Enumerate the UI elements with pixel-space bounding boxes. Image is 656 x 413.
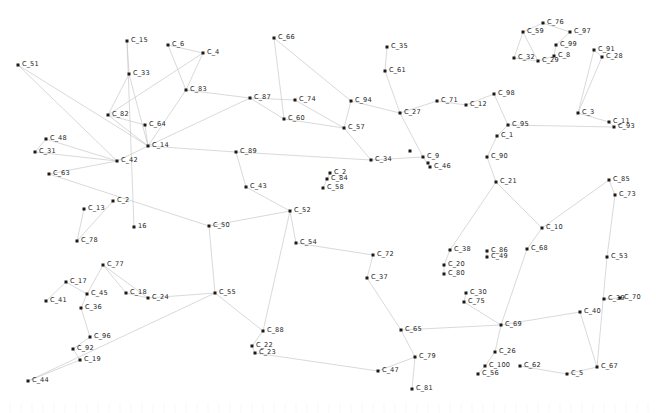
graph-node[interactable] bbox=[262, 330, 265, 333]
graph-node[interactable] bbox=[486, 156, 489, 159]
graph-node[interactable] bbox=[249, 97, 252, 100]
graph-node[interactable] bbox=[465, 104, 468, 107]
graph-node[interactable] bbox=[370, 159, 373, 162]
graph-node[interactable] bbox=[167, 44, 170, 47]
graph-node[interactable] bbox=[422, 156, 425, 159]
graph-node[interactable] bbox=[496, 135, 499, 138]
graph-node[interactable] bbox=[350, 100, 353, 103]
graph-node[interactable] bbox=[443, 273, 446, 276]
graph-node[interactable] bbox=[603, 298, 606, 301]
graph-node[interactable] bbox=[399, 112, 402, 115]
graph-node[interactable] bbox=[619, 297, 622, 300]
graph-node[interactable] bbox=[513, 57, 516, 60]
graph-node[interactable] bbox=[495, 181, 498, 184]
graph-node[interactable] bbox=[500, 324, 503, 327]
graph-node[interactable] bbox=[555, 44, 558, 47]
graph-node[interactable] bbox=[493, 93, 496, 96]
graph-node[interactable] bbox=[86, 293, 89, 296]
graph-node[interactable] bbox=[295, 242, 298, 245]
graph-node[interactable] bbox=[107, 114, 110, 117]
graph-node[interactable] bbox=[65, 281, 68, 284]
graph-node[interactable] bbox=[45, 300, 48, 303]
graph-node[interactable] bbox=[289, 210, 292, 213]
graph-node[interactable] bbox=[89, 336, 92, 339]
graph-node[interactable] bbox=[245, 186, 248, 189]
graph-node[interactable] bbox=[208, 225, 211, 228]
graph-node[interactable] bbox=[579, 311, 582, 314]
graph-node[interactable] bbox=[185, 89, 188, 92]
graph-node[interactable] bbox=[372, 254, 375, 257]
graph-node[interactable] bbox=[377, 370, 380, 373]
graph-node[interactable] bbox=[343, 127, 346, 130]
graph-node[interactable] bbox=[147, 297, 150, 300]
graph-node[interactable] bbox=[606, 256, 609, 259]
graph-node[interactable] bbox=[128, 73, 131, 76]
graph-node[interactable] bbox=[27, 380, 30, 383]
graph-node[interactable] bbox=[17, 64, 20, 67]
graph-node[interactable] bbox=[72, 348, 75, 351]
graph-node[interactable] bbox=[400, 329, 403, 332]
graph-node[interactable] bbox=[542, 22, 545, 25]
graph-node[interactable] bbox=[125, 292, 128, 295]
graph-node[interactable] bbox=[273, 37, 276, 40]
graph-node[interactable] bbox=[519, 365, 522, 368]
graph-node[interactable] bbox=[294, 99, 297, 102]
graph-node[interactable] bbox=[414, 356, 417, 359]
graph-node[interactable] bbox=[45, 138, 48, 141]
graph-node[interactable] bbox=[465, 292, 468, 295]
graph-node[interactable] bbox=[112, 200, 115, 203]
graph-node[interactable] bbox=[566, 373, 569, 376]
graph-node[interactable] bbox=[102, 264, 105, 267]
graph-node[interactable] bbox=[409, 150, 412, 153]
graph-node[interactable] bbox=[526, 248, 529, 251]
graph-node[interactable] bbox=[80, 307, 83, 310]
graph-node[interactable] bbox=[116, 160, 119, 163]
graph-node[interactable] bbox=[133, 226, 136, 229]
graph-node[interactable] bbox=[235, 151, 238, 154]
graph-node[interactable] bbox=[449, 249, 452, 252]
graph-node[interactable] bbox=[366, 277, 369, 280]
graph-node[interactable] bbox=[608, 179, 611, 182]
graph-node[interactable] bbox=[537, 60, 540, 63]
graph-node[interactable] bbox=[283, 118, 286, 121]
graph-node[interactable] bbox=[251, 345, 254, 348]
graph-node[interactable] bbox=[326, 178, 329, 181]
graph-node[interactable] bbox=[254, 352, 257, 355]
graph-node[interactable] bbox=[614, 194, 617, 197]
graph-node[interactable] bbox=[144, 124, 147, 127]
graph-node[interactable] bbox=[486, 250, 489, 253]
graph-node[interactable] bbox=[494, 351, 497, 354]
graph-node[interactable] bbox=[322, 187, 325, 190]
graph-node[interactable] bbox=[569, 31, 572, 34]
graph-node[interactable] bbox=[79, 359, 82, 362]
graph-node[interactable] bbox=[522, 31, 525, 34]
graph-node[interactable] bbox=[126, 40, 129, 43]
graph-node[interactable] bbox=[577, 112, 580, 115]
graph-node[interactable] bbox=[596, 366, 599, 369]
graph-node[interactable] bbox=[507, 124, 510, 127]
graph-node[interactable] bbox=[486, 256, 489, 259]
graph-node[interactable] bbox=[608, 121, 611, 124]
graph-node[interactable] bbox=[436, 100, 439, 103]
graph-node[interactable] bbox=[147, 145, 150, 148]
graph-node[interactable] bbox=[34, 151, 37, 154]
graph-node[interactable] bbox=[48, 173, 51, 176]
graph-node[interactable] bbox=[477, 373, 480, 376]
graph-node[interactable] bbox=[386, 46, 389, 49]
graph-node[interactable] bbox=[411, 388, 414, 391]
graph-node[interactable] bbox=[214, 292, 217, 295]
graph-node[interactable] bbox=[83, 208, 86, 211]
graph-node[interactable] bbox=[484, 365, 487, 368]
graph-node[interactable] bbox=[429, 166, 432, 169]
graph-node[interactable] bbox=[384, 70, 387, 73]
graph-node[interactable] bbox=[593, 49, 596, 52]
graph-node[interactable] bbox=[541, 227, 544, 230]
graph-node[interactable] bbox=[463, 301, 466, 304]
graph-node-label: C_53 bbox=[611, 253, 628, 260]
graph-node[interactable] bbox=[427, 162, 430, 165]
graph-node[interactable] bbox=[76, 240, 79, 243]
graph-node[interactable] bbox=[202, 52, 205, 55]
graph-node[interactable] bbox=[601, 56, 604, 59]
graph-node[interactable] bbox=[443, 264, 446, 267]
graph-node[interactable] bbox=[613, 126, 616, 129]
